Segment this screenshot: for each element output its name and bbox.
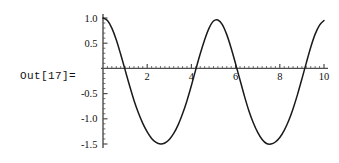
x-tick-label: 10	[319, 71, 330, 82]
y-tick-label: 1.0	[84, 13, 97, 24]
plot-graphic: 246810 1.00.5-0.5-1.0-1.5	[0, 0, 339, 163]
x-axis-group: 246810	[101, 64, 329, 82]
data-curve	[103, 18, 324, 144]
output-cell: Out[17]= 246810 1.00.5-0.5-1.0-1.5	[0, 0, 339, 163]
y-tick-label: -0.5	[81, 88, 98, 99]
x-tick-label: 2	[145, 71, 150, 82]
y-axis-group: 1.00.5-0.5-1.0-1.5	[81, 13, 108, 150]
x-tick-label: 8	[277, 71, 282, 82]
y-tick-labels: 1.00.5-0.5-1.0-1.5	[81, 13, 98, 150]
y-tick-label: -1.5	[81, 139, 98, 150]
y-tick-label: -1.0	[81, 113, 98, 124]
plot-svg: 246810 1.00.5-0.5-1.0-1.5	[0, 0, 339, 163]
y-tick-label: 0.5	[84, 38, 97, 49]
